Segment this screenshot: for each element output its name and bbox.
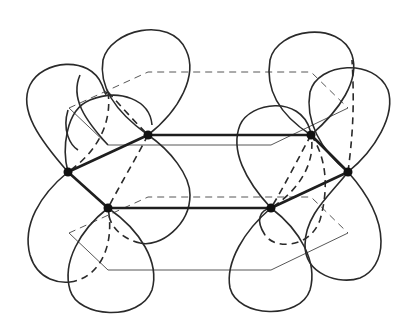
atom-c6 [104, 204, 113, 213]
orbital-lobe-c4-lower [305, 172, 381, 280]
orbital-lobe-c2-hidden [108, 92, 148, 135]
orbital-lobe-c1-lower [28, 172, 70, 282]
orbital-lobe-c6-lower [68, 208, 154, 313]
atom-c1 [64, 168, 73, 177]
atom-c3 [307, 131, 316, 140]
bond-c3-c4 [311, 135, 348, 172]
atom-c4 [344, 168, 353, 177]
bond-c1-c2 [68, 135, 148, 172]
orbital-lobe-c3-lower-hidden [265, 135, 325, 244]
orbital-lobe-c2-lower-hidden [108, 135, 148, 208]
upper-plane-front-edges [69, 108, 348, 145]
benzene-p-orbital-diagram [0, 0, 415, 335]
orbital-lobe-c1-hidden [68, 92, 109, 172]
atom-c2 [144, 131, 153, 140]
atom-c5 [267, 204, 276, 213]
orbital-lobe-c2-lower [140, 135, 190, 244]
orbital-lobe-c1-upper [27, 64, 108, 172]
bond-c6-c1 [68, 172, 108, 208]
bond-c4-c5 [271, 172, 348, 208]
upper-plane-back-edges [69, 72, 348, 108]
orbital-lobe-c5-lower [229, 208, 312, 312]
orbital-lobe-c2-upper [102, 30, 189, 135]
